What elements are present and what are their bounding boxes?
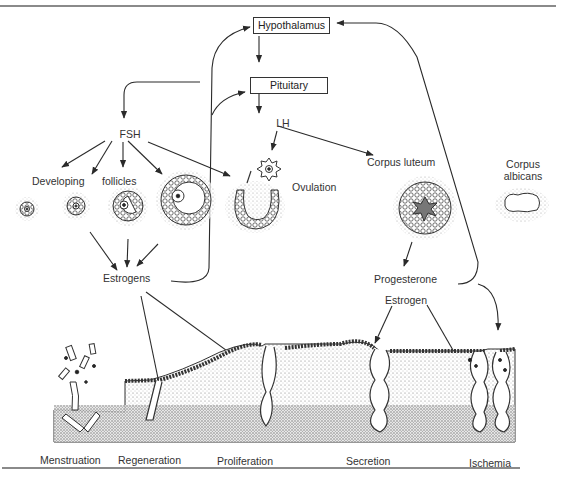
stage-menstruation-label: Menstruation — [40, 454, 101, 466]
pituitary-box: Pituitary — [250, 77, 328, 94]
developing-label: Developing — [32, 175, 85, 187]
corpus-luteum-label: Corpus luteum — [367, 156, 435, 168]
corpus-albicans-label-line1: Corpus — [506, 158, 540, 170]
corpus-albicans-label-line2: albicans — [504, 170, 543, 182]
endometrium — [54, 341, 515, 442]
estrogens-label: Estrogens — [103, 272, 150, 284]
stage-proliferation-label: Proliferation — [217, 455, 273, 467]
corpus-albicans — [495, 188, 549, 222]
estrogen-label: Estrogen — [385, 294, 427, 306]
corpus-luteum — [393, 176, 457, 240]
hypothalamus-box: Hypothalamus — [253, 17, 330, 34]
stage-ischemia-label: Ischemia — [469, 457, 511, 469]
stage-secretion-label: Secretion — [346, 455, 390, 467]
diagram-canvas — [0, 0, 570, 480]
follicles-label: follicles — [102, 175, 136, 187]
stage-regeneration-label: Regeneration — [118, 454, 181, 466]
ovulating-follicle — [225, 158, 285, 233]
lh-label: LH — [276, 117, 289, 129]
ovulation-label: Ovulation — [292, 181, 336, 193]
fsh-label: FSH — [120, 128, 141, 140]
progesterone-label: Progesterone — [374, 273, 437, 285]
